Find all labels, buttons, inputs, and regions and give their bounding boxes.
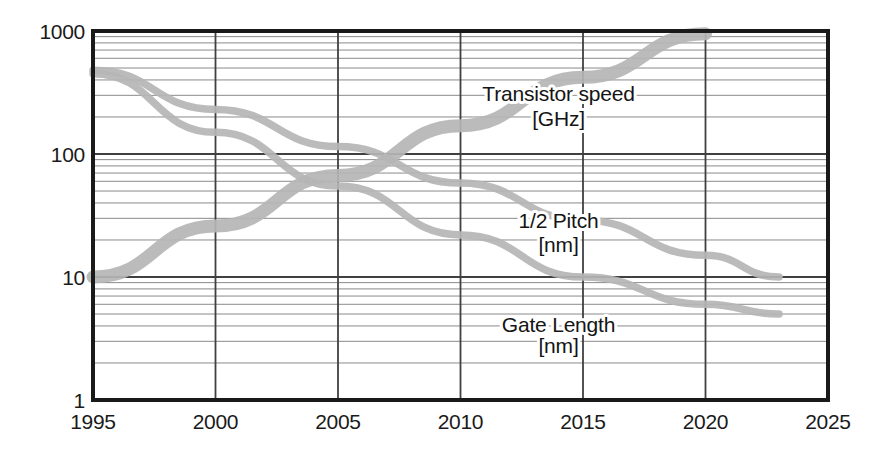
series-annotation-label: Gate Length [502, 313, 615, 336]
x-axis-tick-label: 2005 [315, 410, 361, 433]
series-annotation-label: [GHz] [532, 107, 585, 130]
series-annotation-label: Transistor speed [482, 82, 634, 105]
series-annotation-label: [nm] [538, 233, 578, 256]
y-axis-tick-label: 1000 [39, 20, 85, 43]
x-axis-tick-label: 2025 [805, 410, 851, 433]
x-axis-tick-label: 2020 [683, 410, 729, 433]
y-axis-tick-label: 1 [74, 389, 85, 412]
y-axis-tick-label: 10 [62, 266, 85, 289]
series-annotation-label: [nm] [538, 334, 578, 357]
semilog-chart-canvas: 1000100101 1995200020052010201520202025 … [0, 0, 876, 468]
x-axis-tick-label: 2010 [438, 410, 484, 433]
x-axis-tick-label: 1995 [70, 410, 116, 433]
chart-figure: 1000100101 1995200020052010201520202025 … [0, 0, 876, 468]
series-annotation-label: 1/2 Pitch [519, 209, 599, 232]
y-axis-tick-label: 100 [51, 143, 85, 166]
x-axis-tick-label: 2015 [560, 410, 606, 433]
x-axis-tick-label: 2000 [193, 410, 239, 433]
